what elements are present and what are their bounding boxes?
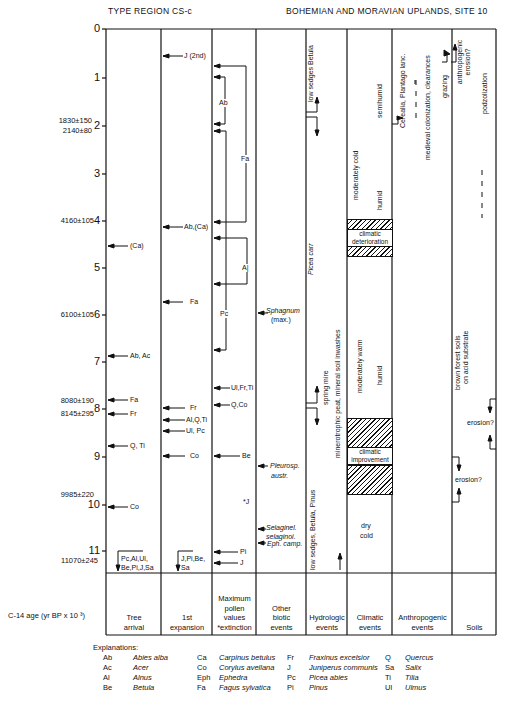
hydro-label: low sedges, Betula, Pinus: [309, 490, 317, 570]
climatic-label: moderately warm: [356, 339, 364, 393]
max-pollen-label: Pi: [240, 548, 246, 556]
legend-row: BeBetula FaFagus sylvatica PiPinus UlUlm…: [103, 683, 437, 693]
date-label: 6100±105: [40, 310, 94, 319]
biotic-label: Selaginel.: [266, 524, 297, 532]
column-header-hydrologic: Hydrologic events: [307, 575, 347, 632]
tree-arrival-label: Be,Pi,J,Sa: [121, 564, 154, 572]
tree-arrival-label: Ab, Ac: [130, 352, 150, 360]
date-label: 11070±245: [40, 556, 98, 565]
legend-row: AcAcer CoCorylus avellana JJuniperus com…: [103, 663, 437, 673]
legend-row: AlAlnus EphEphedra PcPicea abies TiTilia: [103, 673, 437, 683]
anthro-label: anthropogenic erosion?: [456, 39, 472, 85]
axis-label: C-14 age (yr BP x 10 ³): [8, 611, 85, 620]
hatch-block: [347, 465, 393, 495]
biotic-label: Eph. camp.: [267, 540, 302, 548]
hatch-block: [347, 246, 393, 257]
biotic-label: austr.: [271, 472, 288, 480]
tick-10: 10: [80, 498, 100, 510]
legend-table: AbAbies alba CaCarpinus betulus FrFraxin…: [103, 653, 437, 693]
biotic-label: Pleurosp.: [270, 462, 300, 470]
tick-1: 1: [80, 71, 100, 83]
expansion-label: J,Pi,Be,: [181, 555, 205, 563]
expansion-label: Fr: [190, 404, 197, 412]
column-header-tree-arrival: Tree arrival: [107, 575, 161, 632]
tree-arrival-label: Pc,Al,Ul,: [121, 555, 148, 563]
tree-arrival-label: (Ca): [130, 242, 144, 250]
max-pollen-label: Pc: [220, 310, 228, 318]
hydro-label: low sedges Betula: [307, 45, 315, 102]
date-label: 9985±220: [40, 490, 94, 499]
biotic-label: Sphagnum: [266, 307, 300, 315]
expansion-label: Fa: [190, 298, 198, 306]
climatic-label: semihumid: [376, 84, 384, 118]
column-header-max-pollen: Maximum pollen values *extinction: [213, 575, 256, 632]
date-label: 4160±105: [40, 216, 94, 225]
hydro-label: minerotrophic peat, mineral soil inwashe…: [334, 330, 342, 458]
expansion-label: Ab,(Ca): [184, 223, 208, 231]
expansion-label: Ul, Pc: [186, 427, 205, 435]
hatch-block: [347, 219, 393, 230]
hatch-block: [347, 418, 393, 448]
climatic-label: moderately cold: [352, 151, 360, 200]
soils-label: erosion?: [467, 419, 494, 427]
biotic-label: (max.): [271, 316, 291, 324]
max-pollen-label: Ul,Fr,Ti: [231, 384, 253, 392]
column-header-climatic: Climatic events: [348, 575, 392, 632]
soils-label: erosion?: [455, 476, 482, 484]
date-label: 1830±150: [40, 116, 92, 125]
hydro-label: spring mire: [322, 370, 330, 405]
tick-9: 9: [80, 450, 100, 462]
column-header-first-expansion: 1st expansion: [162, 575, 212, 632]
anthro-label: medieval colonization, clearances: [424, 55, 432, 160]
max-pollen-label: Ab: [219, 99, 228, 107]
max-pollen-label: Be: [242, 452, 251, 460]
tree-arrival-label: Fa: [130, 396, 138, 404]
expansion-label: Co: [190, 452, 199, 460]
climatic-label: humid: [376, 191, 384, 210]
anthro-label: grazing: [441, 75, 449, 98]
hydro-label: Picea carr: [307, 243, 315, 275]
tick-7: 7: [80, 355, 100, 367]
date-label: 8080±190: [40, 396, 94, 405]
expansion-label: J (2nd): [184, 52, 206, 60]
climatic-label: dry: [361, 522, 371, 530]
climatic-deterioration-label: climatic deterioration: [347, 230, 393, 246]
tick-3: 3: [80, 167, 100, 179]
date-label: 8145±295: [40, 409, 94, 418]
tree-arrival-label: Fr: [130, 410, 137, 418]
date-label: 2140±80: [40, 126, 92, 135]
climatic-label: humid: [376, 366, 384, 385]
column-header-soils: Soils: [453, 575, 496, 632]
soils-label: on acid substrate: [462, 331, 470, 384]
tick-0: 0: [80, 22, 100, 34]
tree-arrival-label: Co: [130, 503, 139, 511]
tick-11: 11: [80, 544, 100, 556]
column-header-other-biotic: Other biotic events: [257, 575, 306, 632]
climatic-label: cold: [360, 532, 373, 540]
soils-label: podzolization: [481, 73, 489, 114]
tree-arrival-label: Q, Ti: [130, 442, 145, 450]
climatic-improvement-label: climatic improvement: [347, 447, 393, 465]
legend-row: AbAbies alba CaCarpinus betulus FrFraxin…: [103, 653, 437, 663]
tick-5: 5: [80, 261, 100, 273]
max-pollen-label: J: [240, 559, 244, 567]
legend-title: Explanations:: [93, 643, 138, 653]
max-pollen-label: A|: [242, 264, 249, 272]
soils-label: brown forest soils: [454, 336, 462, 390]
expansion-label: Sa: [181, 564, 190, 572]
max-pollen-label: Fa: [241, 155, 249, 163]
column-header-anthropogenic: Anthropogenic events: [393, 575, 452, 632]
max-pollen-label: *J: [243, 498, 249, 506]
anthro-label: Cerealia, Plantago lanc.: [399, 54, 407, 128]
expansion-label: Al,Q,Ti: [186, 416, 207, 424]
max-pollen-label: Q,Co: [231, 401, 247, 409]
